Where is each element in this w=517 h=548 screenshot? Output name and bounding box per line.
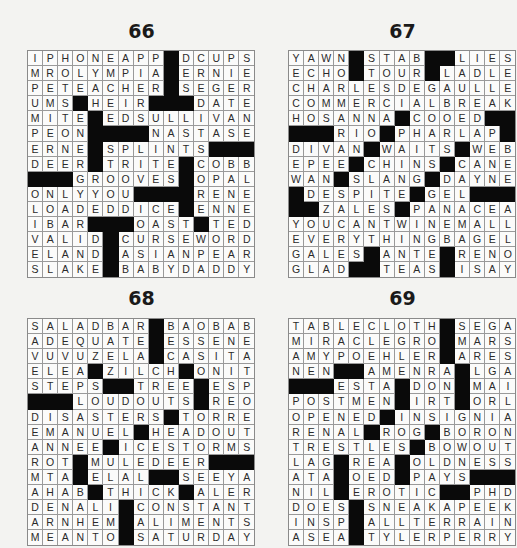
letter-cell: E [239,126,254,141]
letter-cell: S [164,217,179,232]
letter-cell: E [410,81,425,96]
letter-cell: A [58,217,73,232]
letter-cell: D [194,96,209,111]
black-square [88,142,103,157]
letter-cell: I [209,349,224,364]
letter-cell: D [289,500,304,515]
letter-cell: M [319,96,334,111]
letter-cell: E [88,440,103,455]
letter-cell: E [88,262,103,277]
letter-cell: S [179,334,194,349]
black-square [425,172,440,187]
letter-cell: E [179,455,194,470]
black-square [119,515,134,530]
letter-cell: L [134,142,149,157]
letter-cell: A [455,349,470,364]
black-square [149,470,164,485]
letter-cell: R [470,530,485,545]
letter-cell: M [88,455,103,470]
letter-cell: S [500,334,515,349]
letter-cell: G [289,262,304,277]
letter-cell: O [209,425,224,440]
letter-cell: E [440,187,455,202]
letter-cell: L [334,319,349,334]
letter-cell: S [224,379,239,394]
letter-cell: R [88,172,103,187]
letter-cell: A [425,470,440,485]
letter-cell: T [224,96,239,111]
letter-cell: H [119,485,134,500]
letter-cell: S [349,379,364,394]
letter-cell: N [440,202,455,217]
letter-cell: O [425,334,440,349]
letter-cell: I [395,410,410,425]
letter-cell: R [319,334,334,349]
letter-cell: O [470,440,485,455]
letter-cell: R [334,81,349,96]
letter-cell: E [58,364,73,379]
black-square [224,455,239,470]
letter-cell: I [485,515,500,530]
letter-cell: M [289,334,304,349]
black-square [179,157,194,172]
letter-cell: N [289,485,304,500]
letter-cell: R [289,425,304,440]
black-square [395,455,410,470]
letter-cell: A [58,202,73,217]
letter-cell: O [149,500,164,515]
black-square [349,157,364,172]
letter-cell: H [73,515,88,530]
black-square [103,262,118,277]
letter-cell: N [239,111,254,126]
letter-cell: L [88,500,103,515]
letter-cell: E [334,247,349,262]
black-square [485,187,500,202]
puzzle-number: 68 [27,287,256,309]
letter-cell: A [119,319,134,334]
letter-cell: S [179,126,194,141]
letter-cell: N [58,515,73,530]
letter-cell: A [485,262,500,277]
letter-cell: T [364,530,379,545]
letter-cell: I [134,485,149,500]
letter-cell: L [73,66,88,81]
letter-cell: E [364,394,379,409]
letter-cell: C [470,202,485,217]
black-square [500,470,515,485]
letter-cell: E [164,202,179,217]
black-square [149,319,164,334]
black-square [164,81,179,96]
letter-cell: R [470,425,485,440]
letter-cell: E [349,410,364,425]
letter-cell: O [395,319,410,334]
letter-cell: N [425,217,440,232]
letter-cell: G [410,172,425,187]
letter-cell: E [194,515,209,530]
letter-cell: R [425,364,440,379]
letter-cell: W [194,232,209,247]
letter-cell: S [58,96,73,111]
letter-cell: A [149,217,164,232]
letter-cell: T [58,455,73,470]
letter-cell: I [134,66,149,81]
letter-cell: R [149,379,164,394]
letter-cell: T [179,217,194,232]
letter-cell: B [43,217,58,232]
letter-cell: L [73,394,88,409]
letter-cell: O [209,157,224,172]
letter-cell: N [209,202,224,217]
letter-cell: E [349,319,364,334]
letter-cell: E [179,232,194,247]
letter-cell: R [425,530,440,545]
letter-cell: T [289,440,304,455]
letter-cell: A [239,470,254,485]
letter-cell: K [500,500,515,515]
letter-cell: O [134,394,149,409]
letter-cell: E [58,157,73,172]
letter-cell: S [349,247,364,262]
letter-cell: M [455,334,470,349]
letter-cell: S [239,440,254,455]
letter-cell: H [43,485,58,500]
letter-cell: L [470,364,485,379]
letter-cell: L [364,440,379,455]
